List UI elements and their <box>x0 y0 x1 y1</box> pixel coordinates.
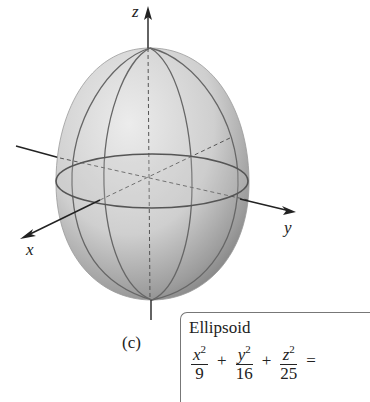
term-z: z2 25 <box>280 340 297 383</box>
x-axis-arrow-icon <box>20 229 36 239</box>
term-y: y2 16 <box>236 340 253 383</box>
z-axis-label: z <box>132 2 139 22</box>
equator-trace <box>56 154 248 208</box>
x-axis-label: x <box>26 240 34 260</box>
plus-operator: + <box>217 351 227 371</box>
x-axis-back <box>16 146 60 158</box>
y-axis-arrow-icon <box>282 206 296 215</box>
plus-operator: + <box>262 351 272 371</box>
figure-caption: (c) <box>122 333 141 353</box>
term-x: x2 9 <box>191 340 208 383</box>
surface-name: Ellipsoid <box>189 318 370 338</box>
equation-box: Ellipsoid x2 9 + y2 16 + z2 25 = <box>180 312 370 402</box>
y-axis-label: y <box>284 218 292 238</box>
equals-operator: = <box>306 351 316 371</box>
ellipsoid-equation: x2 9 + y2 16 + z2 25 = <box>189 340 370 383</box>
